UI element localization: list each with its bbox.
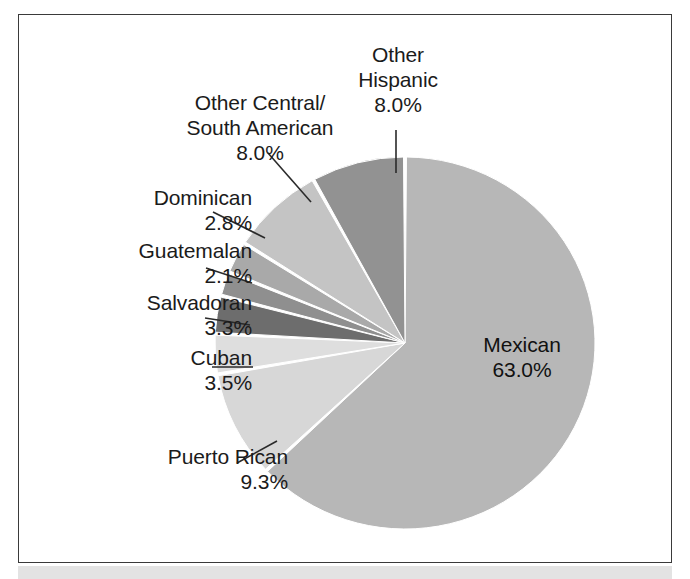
slice-label-puerto-rican: Puerto Rican 9.3%	[88, 444, 288, 494]
slice-label-mexican-name: Mexican	[448, 332, 596, 357]
slice-label-cuban: Cuban 3.5%	[100, 345, 252, 395]
slice-value-other-csa: 8.0%	[160, 140, 360, 165]
slice-label-mexican: Mexican 63.0%	[448, 332, 596, 382]
slice-value-salvadoran: 3.3%	[86, 315, 252, 340]
slice-label-other-hispanic-line2: Hispanic	[344, 67, 452, 92]
slice-label-cuban-name: Cuban	[100, 345, 252, 370]
slice-label-puerto-rican-name: Puerto Rican	[88, 444, 288, 469]
slice-label-other-central-south-american: Other Central/ South American 8.0%	[160, 90, 360, 165]
slice-value-mexican: 63.0%	[448, 357, 596, 382]
slice-label-other-hispanic: Other Hispanic 8.0%	[344, 42, 452, 117]
slice-value-cuban: 3.5%	[100, 370, 252, 395]
slice-value-puerto-rican: 9.3%	[88, 469, 288, 494]
slice-label-other-csa-line1: Other Central/	[160, 90, 360, 115]
figure-page: Other Hispanic 8.0% Other Central/ South…	[0, 0, 690, 579]
slice-value-other-hispanic: 8.0%	[344, 92, 452, 117]
slice-value-guatemalan: 2.1%	[86, 263, 252, 288]
slice-label-salvadoran-name: Salvadoran	[86, 290, 252, 315]
slice-label-other-csa-line2: South American	[160, 115, 360, 140]
slice-label-other-hispanic-line1: Other	[344, 42, 452, 67]
slice-label-guatemalan-name: Guatemalan	[86, 238, 252, 263]
slice-label-salvadoran: Salvadoran 3.3%	[86, 290, 252, 340]
slice-value-dominican: 2.8%	[113, 210, 252, 235]
slice-label-dominican: Dominican 2.8%	[113, 185, 252, 235]
slice-label-dominican-name: Dominican	[113, 185, 252, 210]
slice-label-guatemalan: Guatemalan 2.1%	[86, 238, 252, 288]
